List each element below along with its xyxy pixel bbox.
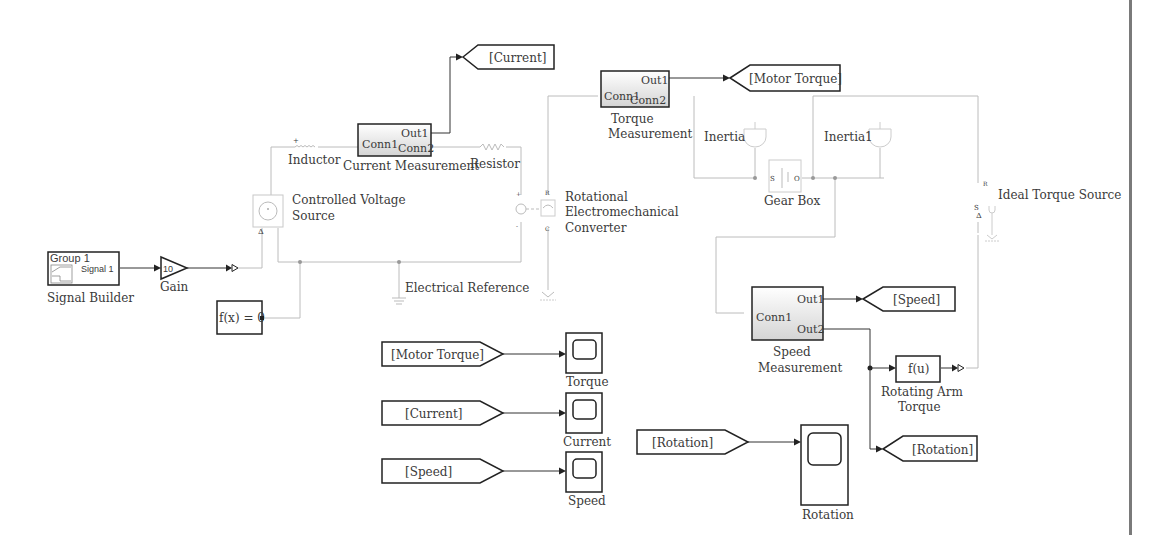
cm-port-conn1: Conn1: [362, 138, 398, 151]
sm-port-out2: Out2: [797, 323, 825, 336]
goto-speed-text: [Speed]: [893, 293, 940, 307]
scope-torque[interactable]: [566, 333, 602, 373]
scope-torque-label: Torque: [566, 375, 609, 389]
delta-port-icon: Δ: [258, 227, 264, 236]
rec-label-3: Converter: [565, 221, 627, 235]
svg-text:R: R: [545, 189, 550, 196]
from-rotation-text: [Rotation]: [652, 436, 713, 450]
goto-current-text: [Current]: [489, 51, 546, 65]
cvs-label-2: Source: [292, 209, 335, 223]
sm-label-1: Speed: [773, 345, 811, 359]
tm-label-1: Torque: [611, 112, 654, 126]
svg-text:C: C: [545, 225, 550, 232]
signal-builder-label: Signal Builder: [47, 291, 134, 305]
inductor-block[interactable]: +: [293, 137, 315, 147]
electrical-reference-label: Electrical Reference: [405, 281, 529, 295]
from-speed[interactable]: [Speed]: [382, 459, 503, 483]
goto-current[interactable]: [Current]: [463, 45, 554, 69]
tm-port-out1: Out1: [641, 74, 669, 87]
gearbox-port-s: S: [770, 175, 775, 183]
signal-builder-block[interactable]: Group 1 Signal 1: [48, 252, 119, 285]
scope-current-label: Current: [563, 435, 611, 449]
gain-block[interactable]: 10: [161, 257, 187, 279]
gain-value: 10: [163, 264, 173, 274]
from-current-text: [Current]: [405, 407, 462, 421]
inductor-label: Inductor: [288, 153, 341, 167]
signal-builder-signal: Signal 1: [81, 264, 114, 274]
rec-label-1: Rotational: [565, 190, 628, 204]
simulink-canvas[interactable]: Group 1 Signal 1 Signal Builder 10 Gain …: [0, 0, 1154, 535]
gearbox-port-o: O: [794, 175, 800, 183]
from-rotation[interactable]: [Rotation]: [637, 430, 748, 454]
rotating-arm-torque-fcn-block[interactable]: f(u): [896, 356, 940, 382]
scope-screen-icon: [808, 433, 841, 465]
sm-label-2: Measurement: [758, 361, 842, 375]
inductor-coil-icon: [295, 146, 315, 148]
current-measurement-block[interactable]: Conn1 Out1 Conn2: [358, 124, 434, 156]
rec-label-2: Electromechanical: [565, 205, 679, 219]
gear-box-block[interactable]: S O: [769, 160, 801, 192]
speed-measurement-block[interactable]: Conn1 Out1 Out2: [752, 287, 825, 340]
scope-rotation[interactable]: [801, 425, 848, 505]
goto-rotation[interactable]: [Rotation]: [883, 436, 977, 461]
scope-screen-icon: [573, 459, 596, 478]
svg-text:+: +: [293, 137, 299, 145]
scope-rotation-label: Rotation: [802, 508, 854, 522]
scope-current[interactable]: [566, 393, 602, 433]
svg-text:R: R: [983, 180, 988, 187]
sm-port-out1: Out1: [797, 293, 825, 306]
inertia-block[interactable]: [744, 122, 766, 147]
gear-box-label: Gear Box: [764, 194, 820, 208]
scope-speed[interactable]: [566, 452, 602, 492]
ideal-torque-source-label: Ideal Torque Source: [998, 188, 1121, 202]
fcn-label-2: Torque: [898, 400, 941, 414]
goto-rotation-text: [Rotation]: [912, 443, 973, 457]
tm-port-conn2: Conn2: [630, 94, 666, 107]
cvs-label-1: Controlled Voltage: [292, 193, 406, 207]
from-motor-torque-text: [Motor Torque]: [391, 348, 484, 362]
solver-text: f(x) = 0: [219, 311, 265, 325]
torque-measurement-block[interactable]: Conn1 Out1 Conn2: [601, 71, 669, 107]
solver-configuration-block[interactable]: f(x) = 0: [217, 301, 265, 334]
from-motor-torque[interactable]: [Motor Torque]: [382, 342, 503, 366]
canvas-edge-scrollbar[interactable]: [1129, 0, 1132, 535]
from-current[interactable]: [Current]: [382, 401, 503, 425]
resistor-block[interactable]: [480, 144, 504, 150]
inertia1-label: Inertia1: [824, 130, 873, 144]
goto-motor-torque-text: [Motor Torque]: [749, 72, 842, 86]
svg-text:+: +: [516, 190, 521, 197]
scope-screen-icon: [573, 400, 596, 419]
goto-speed[interactable]: [Speed]: [863, 287, 955, 311]
delta-port-icon: Δ: [976, 211, 982, 220]
current-measurement-label: Current Measurement: [343, 159, 479, 173]
resistor-zigzag-icon: [480, 144, 504, 150]
scope-speed-label: Speed: [568, 494, 606, 508]
signal-connections: [120, 54, 964, 475]
goto-motor-torque[interactable]: [Motor Torque]: [730, 65, 842, 91]
tm-label-2: Measurement: [608, 127, 692, 141]
cm-port-conn2: Conn2: [398, 142, 434, 155]
gain-label: Gain: [160, 280, 189, 294]
cm-port-out1: Out1: [401, 127, 429, 140]
electrical-reference-block[interactable]: [392, 298, 406, 304]
resistor-label: Resistor: [470, 157, 520, 171]
scope-screen-icon: [573, 340, 596, 359]
fcn-label-1: Rotating Arm: [881, 385, 964, 399]
from-speed-text: [Speed]: [405, 465, 452, 479]
svg-text:-: -: [516, 222, 518, 229]
inertia-label: Inertia: [704, 130, 745, 144]
fcn-text: f(u): [908, 362, 930, 376]
signal-builder-group: Group 1: [50, 252, 90, 264]
sm-port-conn1: Conn1: [756, 311, 792, 324]
